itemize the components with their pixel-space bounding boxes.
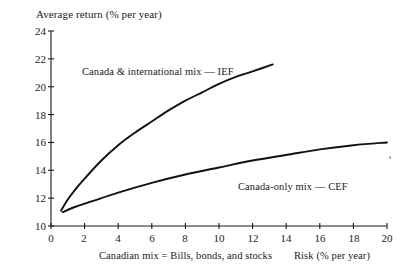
series-line-cef (63, 142, 387, 212)
axis-lines (51, 31, 387, 226)
plot-area (0, 0, 414, 270)
series-line-ief (61, 64, 273, 210)
chart-container: Average return (% per year) 24 22 20 18 … (0, 0, 414, 270)
